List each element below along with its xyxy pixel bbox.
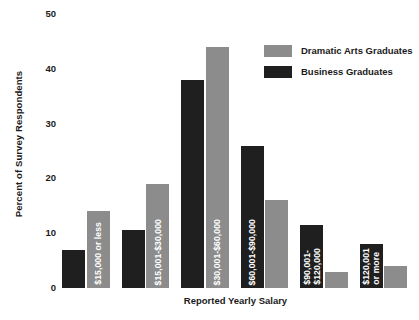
bar-category-label-line: $90,001- [302, 250, 312, 285]
bar-dramatic-arts: $15,001-$30,000 [146, 184, 169, 288]
bar-dramatic-arts [325, 272, 348, 288]
bar-category-label-line: or more [371, 248, 381, 285]
legend-swatch-gray [264, 45, 292, 57]
bar-dramatic-arts: $30,001-$60,000 [206, 47, 229, 288]
legend-label: Business Graduates [301, 66, 393, 77]
y-tick-label: 10 [34, 228, 56, 238]
bar-business [181, 80, 204, 288]
bar-business [122, 230, 145, 288]
y-tick-label: 0 [34, 283, 56, 293]
bar-category-label-line: $15,001-$30,000 [152, 219, 162, 286]
bar-group: $30,001-$60,000 [181, 14, 229, 288]
y-tick-label: 50 [34, 9, 56, 19]
bar-category-label: $120,001or more [361, 248, 381, 285]
bar-category-label: $15,000 or less [93, 222, 104, 285]
y-tick-label: 40 [34, 64, 56, 74]
bar-category-label: $30,001-$60,000 [212, 219, 223, 286]
x-axis-label: Reported Yearly Salary [58, 295, 413, 306]
legend-label: Dramatic Arts Graduates [301, 45, 413, 56]
bar-category-label-line: $120,001 [361, 248, 371, 285]
y-tick-label: 20 [34, 173, 56, 183]
bar-business: $60,001-$90,000 [241, 146, 264, 288]
bar-category-label: $60,001-$90,000 [247, 219, 258, 286]
bar-dramatic-arts [265, 200, 288, 288]
chart-legend: Dramatic Arts GraduatesBusiness Graduate… [264, 44, 413, 86]
bar-group: $15,001-$30,000 [122, 14, 170, 288]
y-axis-ticks: 01020304050 [12, 0, 56, 320]
legend-item: Dramatic Arts Graduates [264, 44, 413, 57]
bar-category-label-line: $120,000 [312, 248, 322, 285]
bar-category-label-line: $60,001-$90,000 [247, 219, 257, 286]
bar-category-label-line: $30,001-$60,000 [212, 219, 222, 286]
bar-dramatic-arts [384, 266, 407, 288]
bar-category-label-line: $15,000 or less [93, 222, 103, 285]
legend-swatch-dark [264, 66, 292, 78]
y-tick-label: 30 [34, 119, 56, 129]
bar-dramatic-arts: $15,000 or less [87, 211, 110, 288]
bar-category-label: $90,001-$120,000 [302, 248, 322, 285]
bar-group: $15,000 or less [62, 14, 110, 288]
bar-business [62, 250, 85, 288]
legend-item: Business Graduates [264, 65, 413, 78]
bar-business: $90,001-$120,000 [300, 225, 323, 288]
bar-category-label: $15,001-$30,000 [152, 219, 163, 286]
bar-business: $120,001or more [360, 244, 383, 288]
bar-chart: Percent of Survey Respondents 0102030405… [0, 0, 419, 320]
